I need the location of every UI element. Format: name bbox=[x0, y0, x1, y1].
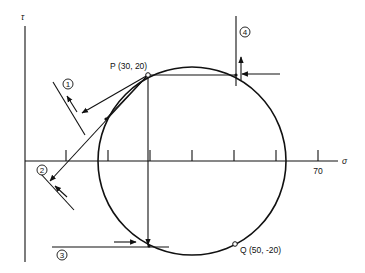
svg-text:1: 1 bbox=[66, 80, 71, 89]
plane-1-marker: 1 bbox=[63, 79, 73, 89]
plane-3-marker: 3 bbox=[57, 250, 67, 260]
plane-4-marker: 4 bbox=[240, 27, 250, 37]
p-chord-line bbox=[106, 75, 148, 119]
sigma-tick-label-70: 70 bbox=[313, 166, 323, 176]
svg-text:2: 2 bbox=[40, 166, 45, 175]
tau-axis-label: τ bbox=[21, 12, 25, 22]
chord-intersection-point bbox=[104, 117, 107, 120]
sigma-axis-ticks bbox=[66, 150, 318, 161]
point-p bbox=[146, 73, 151, 78]
plane-1-normal-arrow bbox=[67, 96, 77, 112]
point-q-label: Q (50, -20) bbox=[240, 245, 281, 255]
point-p-label: P (30, 20) bbox=[110, 61, 147, 71]
svg-text:3: 3 bbox=[60, 251, 65, 260]
bottom-point bbox=[147, 244, 150, 247]
plane-1-line bbox=[53, 82, 85, 135]
plane-2-marker: 2 bbox=[37, 165, 47, 175]
sigma-axis-label: σ bbox=[342, 156, 348, 166]
plane-4-point bbox=[234, 73, 237, 76]
point-q bbox=[233, 242, 238, 247]
plane-2-line bbox=[40, 173, 74, 210]
mohr-circle-diagram: τ σ 70 1 2 3 4 P (30, 20) bbox=[0, 0, 365, 273]
svg-text:4: 4 bbox=[243, 28, 248, 37]
